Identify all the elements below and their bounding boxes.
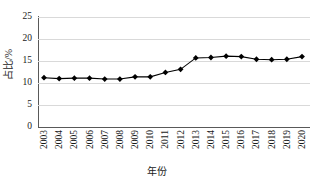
data-point-marker: [299, 54, 305, 60]
data-point-marker: [117, 76, 123, 82]
data-series: [0, 0, 314, 183]
series-line: [44, 56, 302, 79]
data-point-marker: [238, 54, 244, 60]
x-axis-title: 年份: [0, 163, 314, 178]
data-point-marker: [223, 53, 229, 59]
y-axis-title: 占比/%: [0, 36, 15, 94]
data-point-marker: [163, 70, 169, 76]
data-point-marker: [56, 76, 62, 82]
data-point-marker: [132, 74, 138, 80]
data-point-marker: [269, 57, 275, 63]
data-point-marker: [102, 76, 108, 82]
line-chart: 0510152025 20032004200520062007200820092…: [0, 0, 314, 183]
data-point-marker: [208, 55, 214, 61]
data-point-marker: [254, 56, 260, 62]
data-point-marker: [41, 75, 47, 81]
data-point-marker: [71, 75, 77, 81]
data-point-marker: [87, 75, 93, 81]
data-point-marker: [147, 74, 153, 80]
data-point-marker: [284, 56, 290, 62]
